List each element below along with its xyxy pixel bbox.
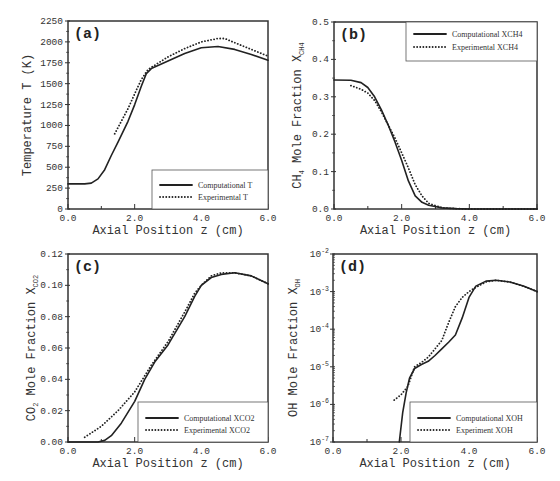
legend: Computational XCO2Experimental XCO2 [138,402,268,442]
computational-series-line [334,80,537,209]
panel-label: (c) [74,259,101,276]
y-tick-label: 1000 [40,120,63,131]
panel-label: (a) [74,26,101,43]
y-tick-label: 0.10 [40,280,63,291]
y-axis-title: CH4 Mole Fraction XCH4 [291,42,306,188]
legend-entry-label: Experimental XCH4 [452,43,518,52]
panel-a: 0.02.04.06.00250500750100012501500175020… [21,16,277,238]
panel-label: (d) [339,259,366,276]
panel-c: 0.02.04.06.00.000.020.040.060.080.100.12… [25,249,277,471]
legend: Computational XOHExperiment XOH [410,402,537,442]
legend-box [406,22,537,61]
y-tick-label: 500 [46,162,63,173]
y-tick-label: 0.3 [312,92,329,103]
y-tick-label: 10-6 [310,398,329,410]
x-axis-title: Axial Position z (cm) [359,457,510,471]
y-tick-label: 0.0 [312,204,329,215]
x-tick-label: 2.0 [126,446,143,457]
x-axis-title: Axial Position z (cm) [92,224,243,238]
x-tick-label: 2.0 [393,213,410,224]
x-tick-label: 6.0 [528,446,545,457]
y-tick-label: 0 [57,204,63,215]
x-axis-title: Axial Position z (cm) [92,457,243,471]
x-tick-label: 4.0 [193,446,210,457]
x-axis-title: Axial Position z (cm) [360,224,511,238]
y-tick-label: 0.5 [312,17,329,28]
legend-entry-label: Experimental XCO2 [184,426,250,435]
x-tick-label: 6.0 [528,213,545,224]
experimental-series-line [394,280,537,400]
y-tick-label: 750 [46,141,63,152]
y-tick-label: 0.06 [40,343,63,354]
figure: 0.02.04.06.00250500750100012501500175020… [0,0,560,481]
legend-entry-label: Computational XOH [456,414,523,423]
panel-label: (b) [340,27,367,44]
y-axis-title: OH Mole Fraction XOH [287,279,302,417]
y-tick-label: 2250 [40,16,63,27]
y-tick-label: 10-2 [310,248,329,260]
x-tick-label: 4.0 [460,446,477,457]
y-tick-label: 0.04 [40,374,63,385]
x-tick-label: 6.0 [259,213,276,224]
y-tick-label: 0.1 [312,167,329,178]
y-axis-title: Temperature T (K) [21,54,35,176]
panel-d: 0.02.04.06.010-710-610-510-410-310-2Axia… [287,248,546,471]
legend: Computational XCH4Experimental XCH4 [406,22,537,61]
y-tick-label: 0.08 [40,312,63,323]
x-tick-label: 2.0 [392,446,409,457]
y-tick-label: 0.02 [40,406,63,417]
y-tick-label: 1250 [40,100,63,111]
y-tick-label: 1750 [40,58,63,69]
x-tick-label: 4.0 [461,213,478,224]
panel-b: 0.02.04.06.00.00.10.20.30.40.5Axial Posi… [291,17,546,238]
legend: Computational TExperimental T [152,170,268,209]
y-tick-label: 0.2 [312,129,329,140]
x-tick-label: 4.0 [193,213,210,224]
legend-entry-label: Computational XCO2 [184,414,254,423]
x-tick-label: 6.0 [259,446,276,457]
y-tick-label: 2000 [40,37,63,48]
y-tick-label: 0.4 [312,54,329,65]
legend-entry-label: Computational XCH4 [452,30,522,39]
y-axis-title: CO2 Mole Fraction XCO2 [25,275,40,421]
computational-series-line [68,47,268,184]
y-tick-label: 250 [46,183,63,194]
legend-entry-label: Experiment XOH [456,426,513,435]
y-tick-label: 10-3 [310,286,329,298]
y-tick-label: 0.00 [40,437,63,448]
x-tick-label: 2.0 [126,213,143,224]
y-tick-label: 10-4 [310,323,329,335]
y-tick-label: 1500 [40,79,63,90]
y-tick-label: 10-5 [310,361,329,373]
legend-entry-label: Computational T [198,181,252,190]
y-tick-label: 0.12 [40,249,63,260]
x-tick-label: 0.0 [324,446,341,457]
legend-entry-label: Experimental T [198,193,248,202]
